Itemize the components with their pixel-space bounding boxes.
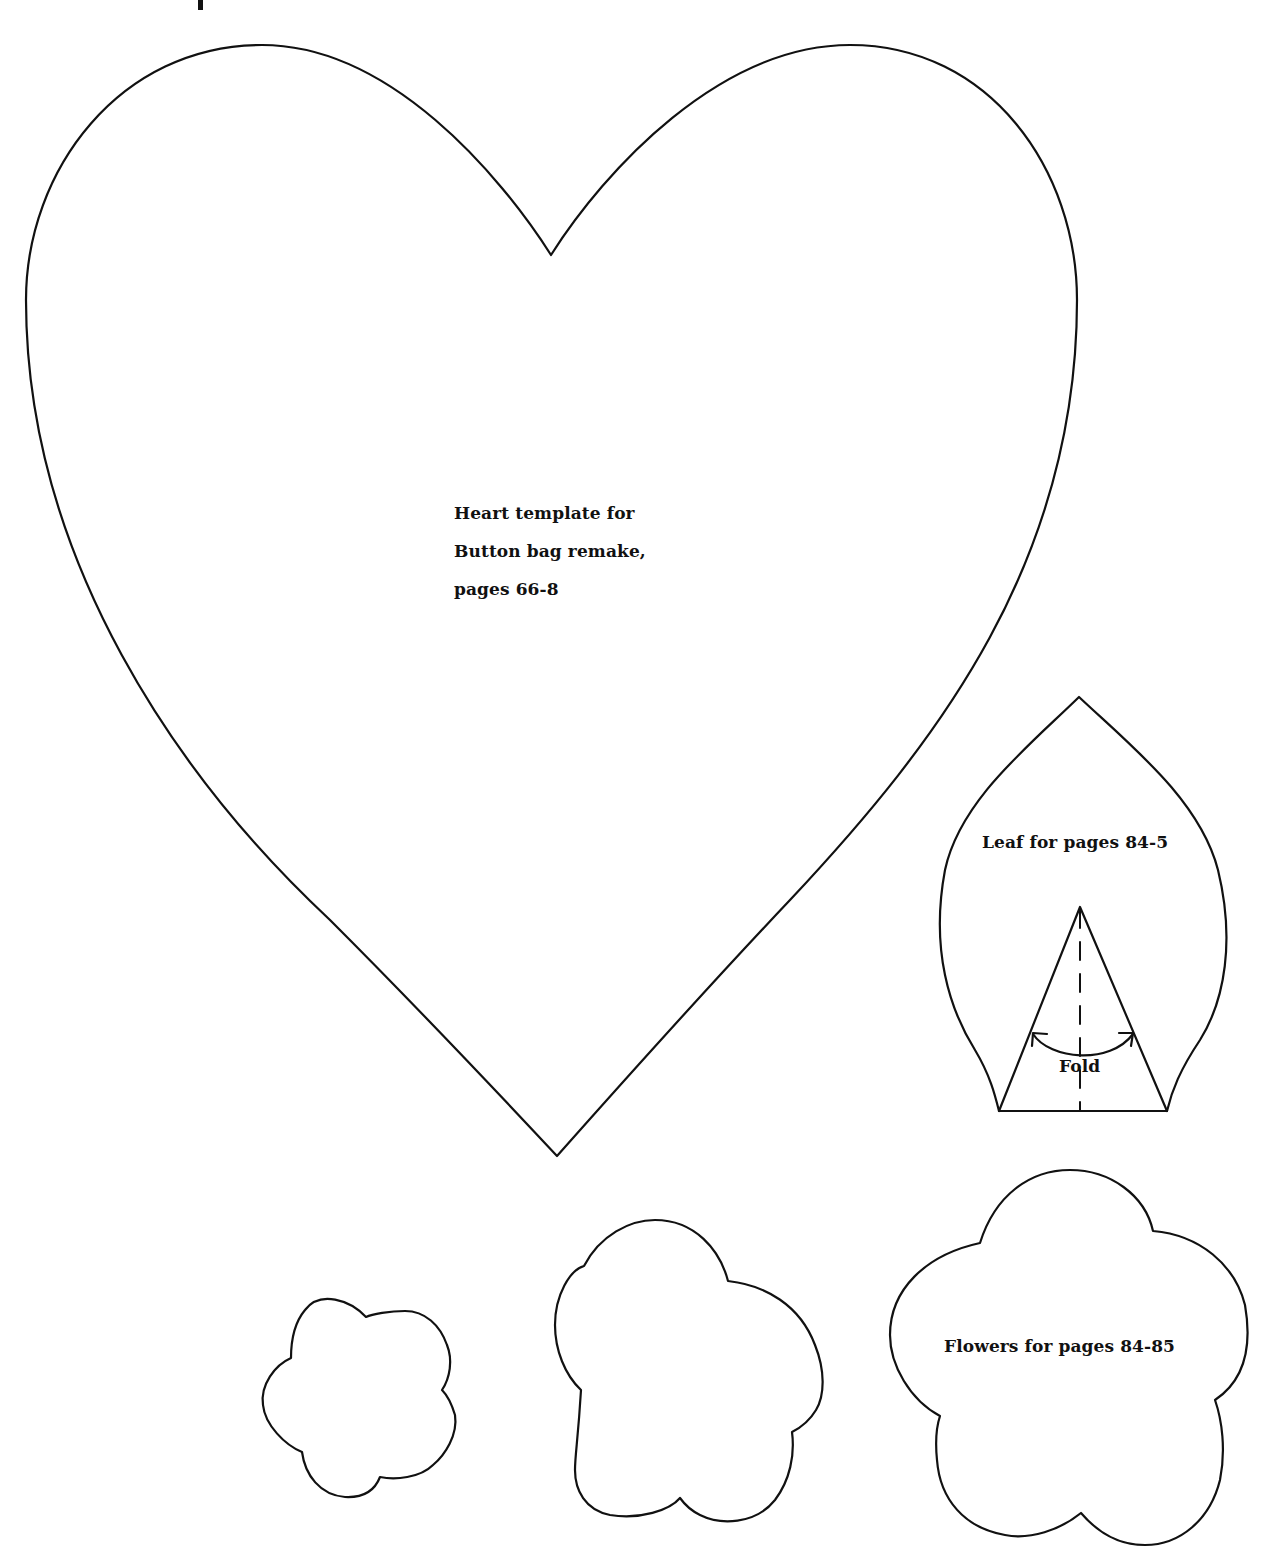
fold-triangle [999,907,1167,1111]
template-shapes [0,0,1274,1566]
large-flower-outline [890,1170,1247,1545]
fold-label: Fold [1059,1056,1100,1076]
leaf-template-label: Leaf for pages 84-5 [982,832,1168,852]
heart-label-line-1: Heart template for [454,494,646,532]
fold-arc-arrow [1033,1034,1133,1055]
heart-label-line-3: pages 66-8 [454,570,646,608]
leaf-outline [940,697,1227,1111]
small-flower-outline [263,1299,456,1497]
heart-label-line-2: Button bag remake, [454,532,646,570]
heart-template-label: Heart template for Button bag remake, pa… [454,494,646,608]
medium-flower-outline [555,1220,823,1521]
flowers-template-label: Flowers for pages 84-85 [944,1336,1175,1356]
